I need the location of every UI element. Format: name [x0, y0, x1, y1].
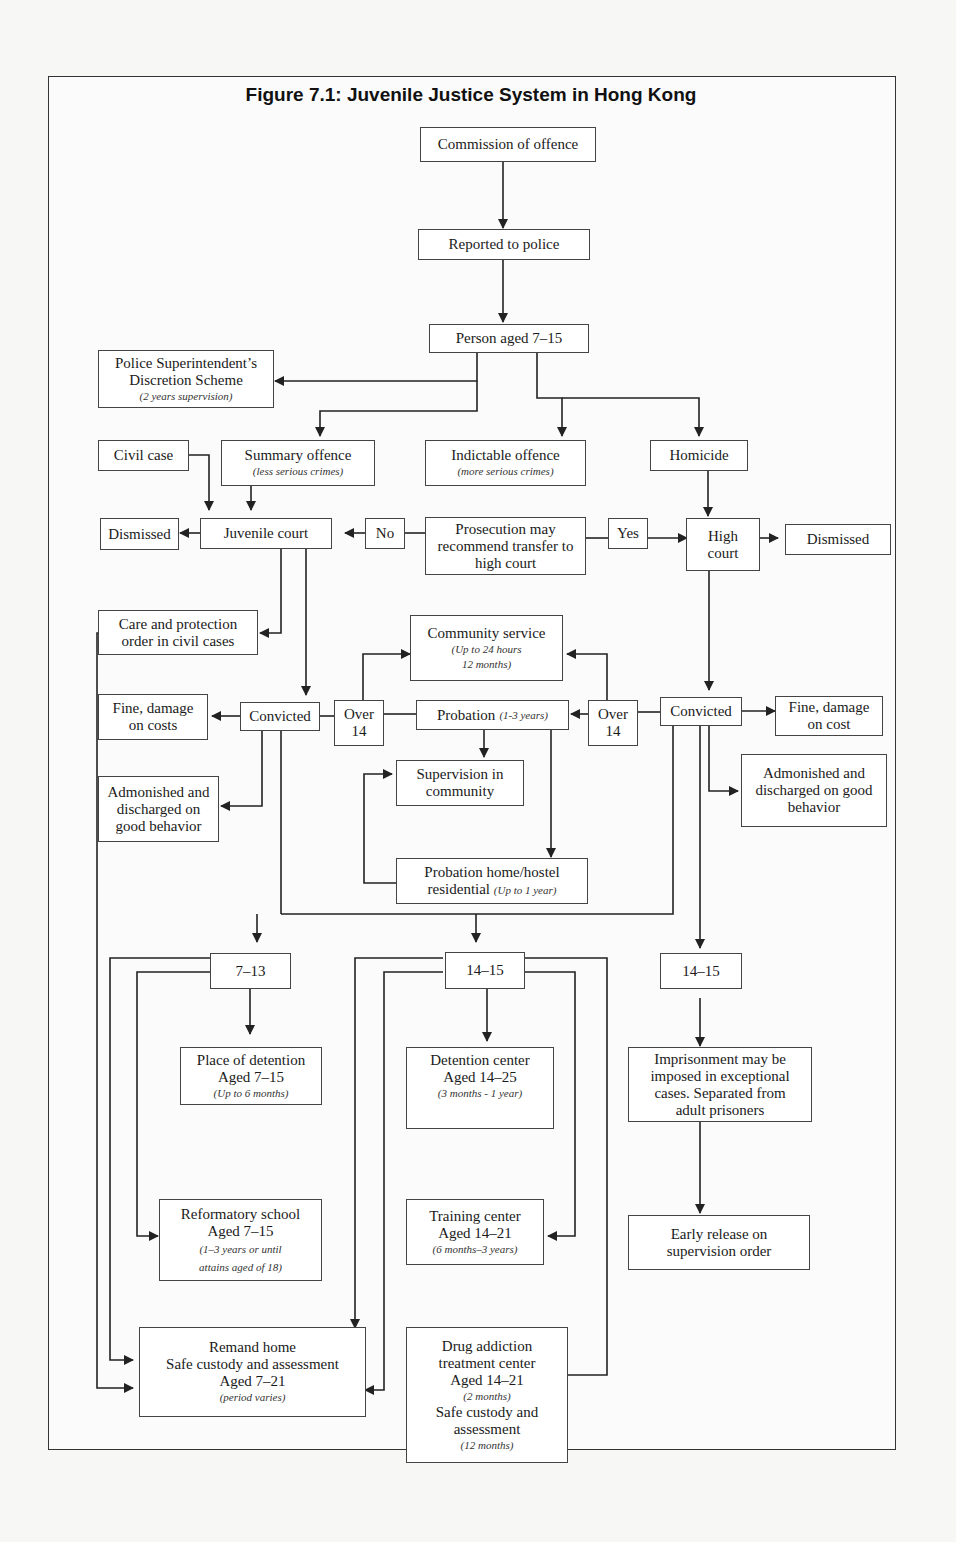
node-community-service: Community service (Up to 24 hours 12 mon… — [410, 615, 563, 681]
node-label: Aged 14–25 — [443, 1069, 517, 1086]
node-label: Probation — [437, 707, 495, 724]
node-dismissed-left: Dismissed — [100, 518, 179, 550]
node-label: assessment — [454, 1421, 521, 1438]
node-summary-offence: Summary offence (less serious crimes) — [221, 440, 375, 486]
node-sublabel: (1-3 years) — [499, 707, 548, 724]
node-fine-damage-right: Fine, damage on cost — [775, 696, 883, 736]
node-sublabel: (less serious crimes) — [253, 464, 343, 479]
node-label: Aged 7–15 — [218, 1069, 284, 1086]
node-label: Training center — [429, 1208, 521, 1225]
node-sublabel: (1–3 years or until — [199, 1242, 281, 1257]
node-label: Summary offence — [245, 447, 352, 464]
node-care-and-protection: Care and protection order in civil cases — [98, 610, 258, 655]
node-label: Aged 7–21 — [219, 1373, 285, 1390]
node-sublabel: (12 months) — [461, 1438, 514, 1453]
node-label: Yes — [617, 525, 639, 542]
node-label: residential — [428, 881, 490, 897]
node-label: Homicide — [669, 447, 728, 464]
node-sublabel: 12 months) — [462, 657, 511, 672]
node-label: Aged 14–21 — [438, 1225, 512, 1242]
node-label: Indictable offence — [451, 447, 559, 464]
node-label: Drug addiction — [442, 1338, 532, 1355]
node-person-aged-7-15: Person aged 7–15 — [429, 324, 589, 353]
node-over-14-right: Over 14 — [588, 700, 638, 746]
node-age-14-15-mid: 14–15 — [445, 952, 525, 989]
node-label: Aged 7–15 — [207, 1223, 273, 1240]
node-reformatory-school: Reformatory school Aged 7–15 (1–3 years … — [159, 1199, 322, 1281]
node-label: Safe custody and assessment — [166, 1356, 339, 1373]
node-civil-case: Civil case — [98, 440, 189, 471]
node-label: Reformatory school — [181, 1206, 301, 1223]
node-label: Aged 14–21 — [450, 1372, 524, 1389]
node-probation: Probation (1-3 years) — [416, 700, 569, 730]
node-label: Safe custody and — [436, 1404, 538, 1421]
node-label: High court — [691, 528, 755, 562]
node-label: Imprisonment may be imposed in exception… — [641, 1051, 799, 1119]
node-label: 14 — [606, 723, 621, 740]
node-label: Supervision in community — [411, 766, 509, 800]
node-sublabel: (more serious crimes) — [457, 464, 553, 479]
node-label: Fine, damage on costs — [111, 700, 195, 734]
node-label-line: residential (Up to 1 year) — [428, 881, 557, 899]
node-label: 14 — [352, 723, 367, 740]
node-fine-damage-left: Fine, damage on costs — [98, 694, 208, 740]
node-commission-of-offence: Commission of offence — [420, 127, 596, 162]
node-convicted-left: Convicted — [240, 702, 320, 731]
node-admonished-right: Admonished and discharged on good behavi… — [741, 754, 887, 827]
node-homicide: Homicide — [650, 440, 748, 471]
node-reported-to-police: Reported to police — [418, 229, 590, 260]
node-training-center: Training center Aged 14–21 (6 months–3 y… — [406, 1199, 544, 1265]
node-sublabel: (Up to 24 hours — [452, 642, 522, 657]
node-label: Place of detention — [197, 1052, 305, 1069]
node-prosecution-transfer: Prosecution may recommend transfer to hi… — [425, 517, 586, 575]
node-supervision-in-community: Supervision in community — [396, 760, 524, 806]
node-sublabel: (6 months–3 years) — [433, 1242, 518, 1257]
node-label: Discretion Scheme — [129, 372, 243, 389]
node-label: Dismissed — [108, 526, 171, 543]
node-sublabel: (Up to 1 year) — [494, 884, 557, 896]
node-sublabel: (2 months) — [463, 1389, 510, 1404]
node-police-superintendent-discretion-scheme: Police Superintendent’s Discretion Schem… — [98, 350, 274, 408]
node-yes: Yes — [608, 518, 648, 549]
node-age-7-13: 7–13 — [210, 953, 291, 989]
node-high-court: High court — [686, 518, 760, 571]
node-probation-home: Probation home/hostel residential (Up to… — [396, 858, 588, 904]
node-label: Convicted — [249, 708, 311, 725]
node-label: 7–13 — [236, 963, 266, 980]
node-label: Admonished and discharged on good behavi… — [107, 784, 210, 835]
node-label: Reported to police — [449, 236, 560, 253]
node-label: Care and protection order in civil cases — [109, 616, 247, 650]
node-label: Civil case — [114, 447, 174, 464]
node-over-14-left: Over 14 — [334, 700, 384, 746]
node-imprisonment: Imprisonment may be imposed in exception… — [628, 1047, 812, 1122]
node-sublabel: attains aged of 18) — [199, 1260, 282, 1275]
node-place-of-detention: Place of detention Aged 7–15 (Up to 6 mo… — [180, 1047, 322, 1105]
node-label: Juvenile court — [224, 525, 309, 542]
node-label: 14–15 — [682, 963, 720, 980]
node-dismissed-right: Dismissed — [785, 524, 891, 555]
node-remand-home: Remand home Safe custody and assessment … — [139, 1327, 366, 1417]
node-early-release: Early release on supervision order — [628, 1215, 810, 1270]
node-no: No — [365, 518, 405, 549]
node-label: Commission of offence — [438, 136, 579, 153]
node-age-14-15-right: 14–15 — [660, 953, 742, 989]
node-convicted-right: Convicted — [660, 697, 742, 726]
node-sublabel: (3 months - 1 year) — [438, 1086, 522, 1101]
node-label: Early release on supervision order — [651, 1226, 787, 1260]
node-sublabel: (Up to 6 months) — [214, 1086, 289, 1101]
node-drug-addiction-treatment: Drug addiction treatment center Aged 14–… — [406, 1327, 568, 1463]
node-label: Admonished and discharged on good behavi… — [748, 765, 880, 816]
node-label: Convicted — [670, 703, 732, 720]
node-label: Dismissed — [807, 531, 870, 548]
node-detention-center: Detention center Aged 14–25 (3 months - … — [406, 1047, 554, 1129]
node-label: Probation home/hostel — [424, 864, 559, 881]
node-label: Over — [598, 706, 628, 723]
node-label: treatment center — [438, 1355, 535, 1372]
node-label: 14–15 — [466, 962, 504, 979]
node-label: No — [376, 525, 394, 542]
node-sublabel: (2 years supervision) — [140, 389, 233, 404]
node-label: Fine, damage on cost — [788, 699, 870, 733]
node-label: Community service — [428, 625, 546, 642]
node-admonished-left: Admonished and discharged on good behavi… — [98, 776, 219, 842]
node-label: Over — [344, 706, 374, 723]
